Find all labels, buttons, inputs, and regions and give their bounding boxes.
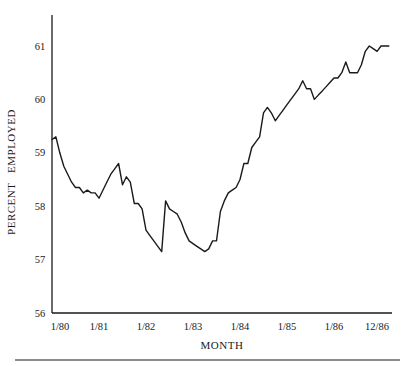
x-tick-label: 1/84	[231, 321, 250, 332]
x-tick-labels: 1/801/811/821/831/841/851/8612/86	[51, 321, 389, 332]
employment-line	[52, 46, 389, 252]
y-tick-label: 58	[35, 201, 46, 212]
x-tick-label: 1/86	[325, 321, 344, 332]
y-tick-label: 57	[35, 254, 46, 265]
line-chart: 565758596061 1/801/811/821/831/841/851/8…	[0, 0, 407, 366]
y-tick-label: 61	[35, 41, 46, 52]
x-tick-label: 12/86	[365, 321, 389, 332]
y-tick-label: 56	[35, 308, 46, 319]
y-tick-labels: 565758596061	[35, 41, 46, 319]
y-tick-label: 60	[35, 94, 46, 105]
y-axis-title: PERCENT EMPLOYED	[5, 109, 17, 235]
x-tick-label: 1/82	[137, 321, 156, 332]
x-axis-title: MONTH	[201, 339, 244, 351]
y-tick-label: 59	[35, 147, 46, 158]
x-tick-label: 1/80	[51, 321, 70, 332]
x-tick-label: 1/81	[90, 321, 109, 332]
x-tick-label: 1/85	[278, 321, 297, 332]
x-tick-label: 1/83	[184, 321, 203, 332]
